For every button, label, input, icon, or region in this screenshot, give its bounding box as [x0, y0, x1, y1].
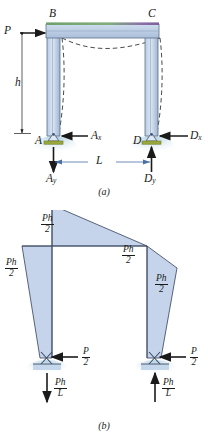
panel-a-graphic — [0, 0, 208, 200]
column-ab — [47, 26, 60, 136]
shear-left-label: P 2 — [82, 347, 90, 368]
span-dimension-line — [55, 159, 150, 164]
beam-bc — [46, 22, 159, 38]
panel-b-graphic — [0, 210, 208, 445]
caption-b: (b) — [0, 420, 208, 431]
moment-left-column-label: Ph 2 — [5, 258, 18, 279]
moment-beam-band — [52, 210, 147, 246]
axial-right-label: Ph L — [162, 378, 175, 399]
caption-a: (a) — [0, 186, 208, 197]
reaction-ax-label: Ax — [91, 130, 101, 142]
shear-right-label: P 2 — [190, 347, 198, 368]
moment-left-column-wedge — [22, 246, 52, 358]
reaction-ay-label: Ay — [46, 173, 56, 185]
reaction-dx-label: Dx — [190, 130, 202, 142]
figure-container: P B C A D h Ax Dx Ay Dy L (a) — [0, 0, 208, 445]
reaction-dy-label: Dy — [144, 173, 156, 185]
moment-right-column-label: Ph 2 — [155, 274, 168, 295]
joint-a-label: A — [35, 135, 42, 147]
height-dimension-label: h — [15, 77, 21, 89]
span-dimension-label: L — [96, 155, 102, 167]
axial-left-label: Ph L — [54, 378, 67, 399]
joint-b-label: B — [49, 8, 56, 20]
column-dc — [145, 26, 158, 136]
joint-d-label: D — [133, 135, 141, 147]
moment-top-left-label: Ph 2 — [41, 214, 54, 235]
joint-c-label: C — [148, 8, 156, 20]
load-p-label: P — [4, 25, 11, 37]
moment-right-column-wedge — [147, 246, 177, 358]
moment-top-right-label: Ph 2 — [122, 245, 135, 266]
